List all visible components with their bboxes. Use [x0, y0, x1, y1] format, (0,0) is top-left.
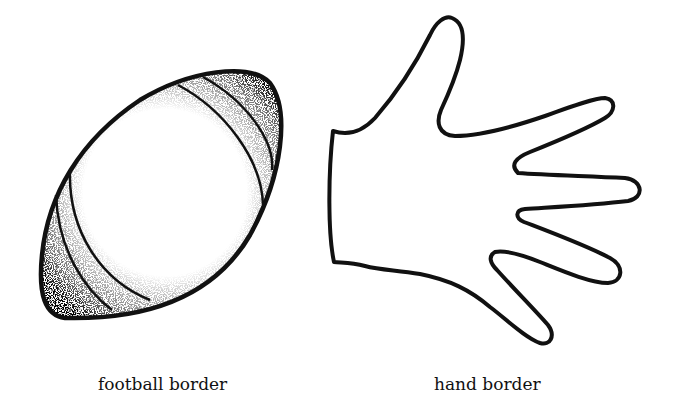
hand-caption: hand border	[434, 374, 541, 394]
football-icon	[30, 55, 300, 330]
clipart-canvas	[0, 0, 675, 405]
football-caption: football border	[98, 374, 227, 394]
hand-icon	[329, 17, 639, 343]
